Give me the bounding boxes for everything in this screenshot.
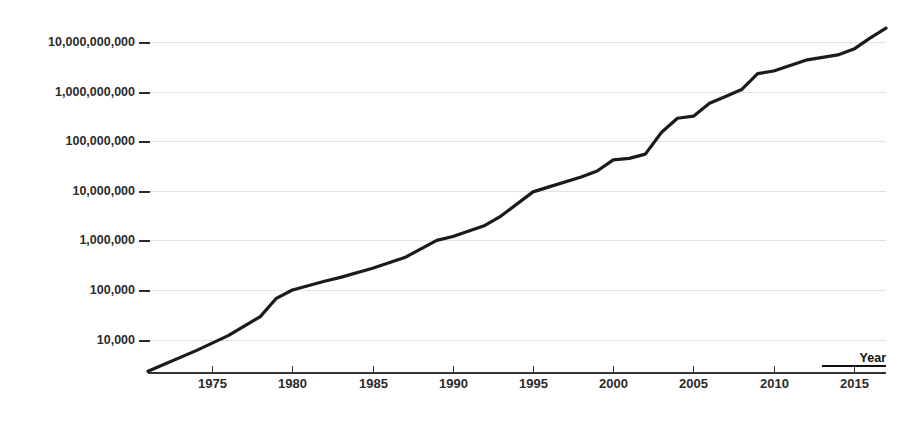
x-tick-label: 2005 — [679, 376, 708, 391]
x-tick-label: 1990 — [439, 376, 468, 391]
y-tick-label: 10,000 — [97, 333, 135, 347]
gridlines-group — [148, 43, 886, 341]
data-series-line — [148, 28, 886, 371]
y-tick-label: 10,000,000,000 — [48, 35, 135, 49]
chart-container: 10,000,000,0001,000,000,000100,000,00010… — [0, 0, 905, 421]
x-tick-label: 1985 — [359, 376, 388, 391]
y-tick-labels-group: 10,000,000,0001,000,000,000100,000,00010… — [48, 35, 135, 347]
x-tick-label: 2000 — [599, 376, 628, 391]
x-tick-label: 1995 — [519, 376, 548, 391]
y-tick-label: 1,000,000 — [79, 233, 135, 247]
x-tick-label: 2015 — [840, 376, 869, 391]
y-tick-label: 1,000,000,000 — [55, 85, 135, 99]
y-tick-label: 100,000 — [90, 283, 135, 297]
x-tick-labels-group: 197519801985199019952000200520102015 — [198, 376, 869, 391]
x-tick-label: 1980 — [278, 376, 307, 391]
y-tick-label: 100,000,000 — [65, 134, 135, 148]
x-axis-title: Year — [860, 351, 887, 365]
x-tick-label: 2010 — [760, 376, 789, 391]
y-tick-marks-group — [139, 43, 150, 341]
x-tick-label: 1975 — [198, 376, 227, 391]
log-growth-line-chart: 10,000,000,0001,000,000,000100,000,00010… — [0, 0, 905, 421]
y-tick-label: 10,000,000 — [72, 184, 135, 198]
